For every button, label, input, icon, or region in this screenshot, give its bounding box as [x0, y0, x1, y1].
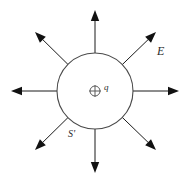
charge-label-q: q — [104, 83, 109, 92]
field-arrow-up-head — [91, 10, 99, 21]
surface-label-S-prime: S' — [68, 129, 75, 139]
field-arrow-left-head — [11, 87, 22, 95]
field-arrow-lower-left-shaft — [43, 118, 68, 143]
field-arrow-right-head — [168, 87, 179, 95]
field-arrow-down-head — [91, 162, 99, 173]
field-arrow-upper-left-shaft — [43, 40, 68, 65]
field-arrow-lower-right-shaft — [122, 117, 148, 142]
field-diagram-canvas — [0, 0, 189, 183]
field-label-E: E — [157, 45, 164, 57]
physics-figure: E S' q — [0, 0, 189, 183]
positive-charge-icon — [89, 85, 101, 97]
field-arrow-upper-right-shaft — [122, 40, 148, 65]
